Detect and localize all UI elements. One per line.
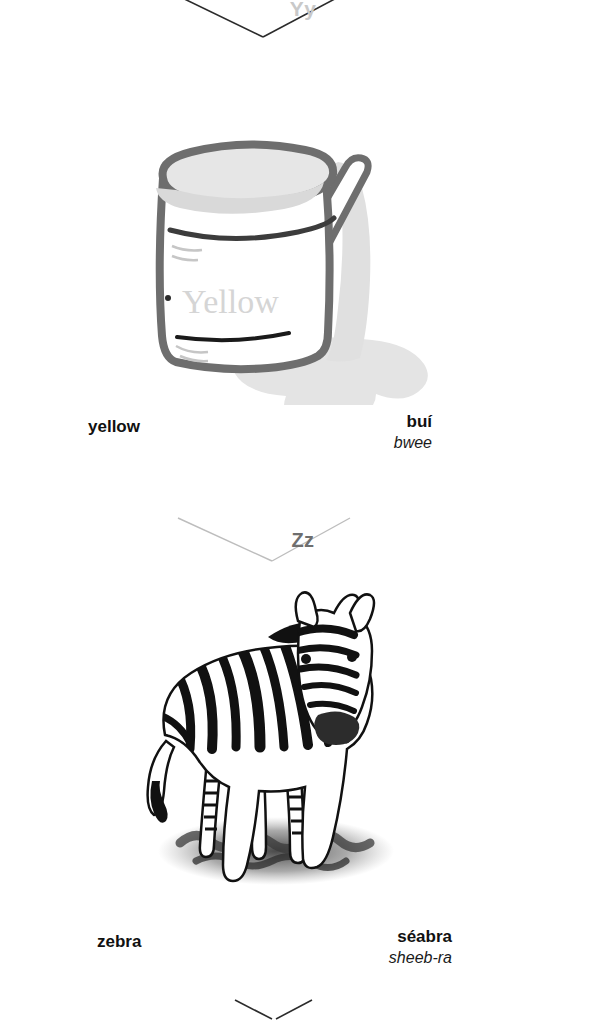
irish-word-group-yellow: buí bwee: [394, 412, 432, 452]
irish-word-bui: buí: [394, 412, 432, 432]
can-label-text: Yellow: [182, 283, 279, 320]
letter-divider-bottom: [0, 985, 606, 1024]
zebra-eye-left: [301, 654, 311, 664]
chevron-right-stroke: [276, 1000, 312, 1019]
entry-yellow: Yellow yellow buí bwee: [0, 60, 606, 465]
english-word-zebra: zebra: [97, 932, 141, 952]
chevron-left-stroke: [235, 1000, 272, 1019]
pronunciation-bwee: bwee: [394, 434, 432, 452]
can-rivet: [165, 295, 171, 301]
letter-divider-yy: Yy: [0, 0, 606, 37]
english-word-yellow: yellow: [88, 417, 140, 437]
illustration-paint-can: Yellow: [0, 60, 606, 405]
entry-zebra: zebra séabra sheeb-ra: [0, 575, 606, 980]
caption-yellow: yellow buí bwee: [0, 405, 606, 465]
illustration-zebra: [0, 575, 606, 920]
caption-zebra: zebra séabra sheeb-ra: [0, 920, 606, 980]
irish-word-seabra: séabra: [389, 927, 452, 947]
letter-divider-zz: Zz: [0, 505, 606, 569]
pronunciation-sheeb-ra: sheeb-ra: [389, 949, 452, 967]
letter-label-yy: Yy: [0, 0, 606, 21]
irish-word-group-zebra: séabra sheeb-ra: [389, 927, 452, 967]
zebra-ear-left: [296, 592, 318, 627]
zebra-eye-right: [347, 652, 357, 662]
letter-label-zz: Zz: [0, 529, 606, 552]
